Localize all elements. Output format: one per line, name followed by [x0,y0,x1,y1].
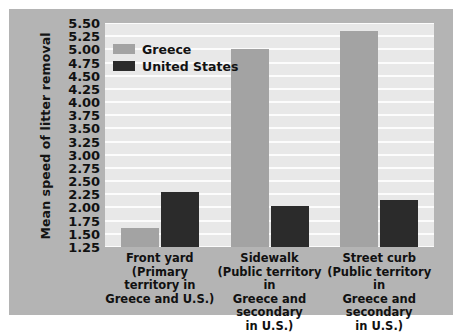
x-label-group: Front yard(Primary territory inGreece an… [105,252,215,306]
y-tick-label: 4.25 [45,82,100,95]
x-axis-category-labels: Front yard(Primary territory inGreece an… [105,252,434,314]
bar-sidewalk-greece [231,49,269,247]
x-label-name: Front yard [105,252,215,266]
y-tick-label: 2.25 [45,188,100,201]
y-tick-label: 4.75 [45,56,100,69]
y-tick-label: 4.00 [45,96,100,109]
x-label-sub: (Primary territory in [105,266,215,293]
legend-swatch-greece-icon [113,44,135,54]
plot-area: Greece United States [105,23,434,247]
bar-front-yard-united-states [161,192,199,247]
x-label-sub: Greece and secondary [324,293,434,320]
y-tick-label: 2.50 [45,175,100,188]
legend-label-greece: Greece [142,42,191,57]
legend-label-united-states: United States [142,59,238,74]
legend-item-greece: Greece [113,41,238,57]
x-label-group: Street curb(Public territory inGreece an… [324,252,434,333]
y-tick-label: 5.25 [45,30,100,43]
x-label-sub: in U.S.) [215,320,325,333]
x-label-group: Sidewalk(Public territory inGreece and s… [215,252,325,333]
y-tick-label: 3.75 [45,109,100,122]
x-label-sub: Greece and U.S.) [105,293,215,307]
gridline [105,167,434,169]
x-label-sub: Greece and secondary [215,293,325,320]
bar-street-curb-greece [340,31,378,247]
gridline [105,127,434,129]
gridline [105,23,434,24]
y-tick-label: 3.00 [45,148,100,161]
bar-street-curb-united-states [380,200,418,247]
legend: Greece United States [113,41,238,75]
y-tick-label: 4.50 [45,69,100,82]
gridline [105,35,434,37]
gridline [105,193,434,195]
gridline [105,101,434,103]
gridline [105,114,434,116]
x-label-sub: in U.S.) [324,320,434,333]
y-tick-label: 3.25 [45,135,100,148]
x-label-name: Street curb [324,252,434,266]
gridline [105,154,434,156]
x-label-name: Sidewalk [215,252,325,266]
legend-item-united-states: United States [113,58,238,74]
y-tick-label: 3.50 [45,122,100,135]
y-tick-label: 1.75 [45,214,100,227]
y-axis-tick-labels: 5.505.255.004.754.504.254.003.753.503.25… [45,23,100,247]
y-tick-label: 1.25 [45,241,100,254]
legend-swatch-united-states-icon [113,61,135,71]
gridline [105,75,434,77]
x-label-sub: (Public territory in [324,266,434,293]
figure-background: Mean speed of litter removal 5.505.255.0… [9,9,453,315]
gridline [105,180,434,182]
bar-front-yard-greece [121,228,159,248]
y-tick-label: 5.50 [45,17,100,30]
gridline [105,88,434,90]
y-tick-label: 2.00 [45,201,100,214]
y-tick-label: 2.75 [45,161,100,174]
y-tick-label: 5.00 [45,43,100,56]
x-label-sub: (Public territory in [215,266,325,293]
y-tick-label: 1.50 [45,227,100,240]
gridline [105,141,434,143]
bar-sidewalk-united-states [271,206,309,247]
